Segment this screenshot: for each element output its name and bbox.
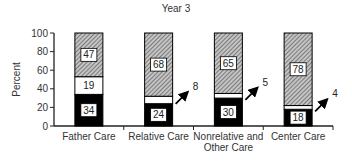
value-label: 78 bbox=[293, 64, 305, 75]
x-category-label: Center Care bbox=[271, 131, 326, 142]
x-category-label: Relative Care bbox=[128, 131, 189, 142]
plot-area: 020406080100 341947248683056518478 Fathe… bbox=[0, 0, 352, 161]
value-label: 47 bbox=[83, 49, 95, 60]
y-tick-label: 20 bbox=[37, 102, 49, 113]
value-label: 65 bbox=[223, 58, 235, 69]
value-label: 18 bbox=[293, 112, 305, 123]
bar-segment bbox=[214, 93, 242, 98]
bars: 341947248683056518478 bbox=[75, 33, 338, 126]
bar-relative-care: 24868 bbox=[145, 33, 199, 126]
x-category-label: Nonrelative and bbox=[193, 131, 263, 142]
annotation-label: 5 bbox=[262, 77, 268, 88]
annotation-label: 8 bbox=[193, 81, 199, 92]
y-tick-label: 80 bbox=[37, 46, 49, 57]
bar-nonrelative-and-other-care: 30565 bbox=[214, 33, 268, 126]
value-label: 68 bbox=[153, 59, 165, 70]
bar-segment bbox=[145, 96, 173, 103]
y-tick-label: 40 bbox=[37, 83, 49, 94]
value-label: 19 bbox=[83, 80, 95, 91]
value-label: 24 bbox=[153, 109, 165, 120]
stacked-bar-chart: Year 3 Percent 020406080100 341947248683… bbox=[0, 0, 352, 161]
annotation-label: 4 bbox=[332, 88, 338, 99]
annotation-arrow-icon bbox=[315, 100, 326, 111]
bar-center-care: 18478 bbox=[284, 33, 338, 126]
y-tick-label: 100 bbox=[31, 28, 48, 39]
y-tick-label: 60 bbox=[37, 65, 49, 76]
value-label: 30 bbox=[223, 107, 235, 118]
annotation-arrow-icon bbox=[176, 93, 187, 104]
annotation-arrow-icon bbox=[245, 89, 256, 100]
bar-segment bbox=[284, 106, 312, 110]
x-category-label: Other Care bbox=[204, 142, 254, 153]
y-tick-label: 0 bbox=[42, 121, 48, 132]
x-axis-labels: Father CareRelative CareNonrelative andO… bbox=[62, 131, 326, 153]
bar-father-care: 341947 bbox=[75, 33, 103, 126]
x-category-label: Father Care bbox=[62, 131, 116, 142]
value-label: 34 bbox=[83, 105, 95, 116]
